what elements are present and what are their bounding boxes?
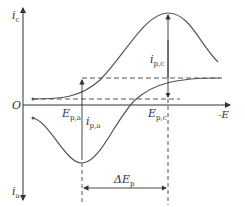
cv-diagram: ic ia O -E ip,c ip,a Ep,a Ep,c ΔEp [0, 0, 245, 207]
ipa-label: ip,a [86, 115, 100, 130]
anodic-curve [33, 78, 220, 163]
y-top-label: ic [12, 9, 20, 24]
delta-ep-label: ΔEp [113, 173, 135, 188]
epa-label: Ep,a [61, 107, 81, 122]
epc-label: Ep,c [147, 107, 167, 122]
y-bottom-label: ia [12, 185, 20, 200]
cathodic-curve [33, 13, 218, 99]
origin-label: O [12, 99, 21, 112]
x-axis-label: -E [218, 109, 229, 120]
ipc-label: ip,c [150, 53, 164, 68]
